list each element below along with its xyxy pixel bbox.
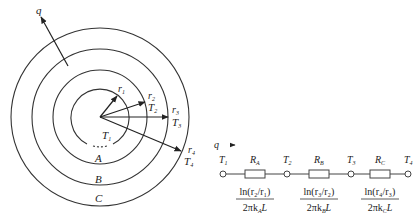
node-label-T4: T4: [404, 154, 413, 166]
resistance-formula-C: ln(r₄/r₃) 2πkCL: [361, 186, 399, 214]
label-r1: r1: [118, 83, 125, 95]
node-label-T1: T1: [219, 154, 228, 166]
radius-r4-arrow: [100, 117, 181, 151]
formula-denominator: 2πkCL: [368, 202, 393, 214]
formula-denominator: 2πkBL: [307, 202, 332, 214]
label-T1: T1: [102, 129, 111, 142]
resistor-C: [370, 170, 390, 178]
label-T3: T3: [172, 116, 181, 129]
resistor-A: [245, 170, 265, 178]
layer-label-A: A: [94, 152, 102, 164]
heat-flow-label: q: [36, 4, 42, 16]
resistor-label-RB: RB: [313, 154, 324, 166]
resistance-formula-B: ln(r₃/r₂) 2πkBL: [300, 186, 338, 214]
resistor-label-RC: RC: [374, 154, 386, 166]
inner-surface-r1-gap: [93, 146, 107, 147]
circuit-heat-flow-label: q: [214, 139, 219, 150]
node-T2: [284, 171, 290, 177]
node-T4: [405, 171, 411, 177]
resistor-B: [309, 170, 329, 178]
layer-label-C: C: [95, 192, 103, 204]
formula-numerator: ln(r₄/r₃): [365, 186, 396, 198]
thermal-resistance-circuit: q T1 T2 T3 T4 RA RB RC ln(r₂/r₁) 2πkAL: [214, 139, 413, 214]
label-r3: r3: [172, 104, 179, 116]
formula-denominator: 2πkAL: [243, 202, 268, 214]
resistance-formula-A: ln(r₂/r₁) 2πkAL: [236, 186, 274, 214]
label-T2: T2: [148, 101, 157, 114]
node-T1: [220, 171, 226, 177]
resistor-label-RA: RA: [249, 154, 260, 166]
formula-numerator: ln(r₃/r₂): [304, 186, 335, 198]
node-label-T3: T3: [347, 154, 356, 166]
layer-label-B: B: [95, 173, 102, 185]
node-label-T2: T2: [283, 154, 292, 166]
heat-flow-arrow: [41, 17, 68, 66]
node-T3: [348, 171, 354, 177]
diagram-canvas: q r1 r2 r3 r4 T1 T2 T3 T4 A B C q: [0, 0, 420, 224]
label-T4: T4: [184, 155, 193, 168]
cylinder-cross-section: q r1 r2 r3 r4 T1 T2 T3 T4 A B C: [11, 4, 195, 206]
formula-numerator: ln(r₂/r₁): [240, 186, 271, 198]
